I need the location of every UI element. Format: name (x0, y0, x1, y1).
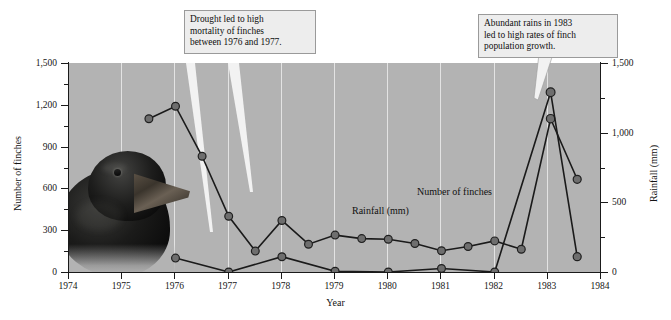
y-tick-left (61, 188, 69, 189)
annotation-line: between 1976 and 1977. (190, 37, 310, 49)
x-axis-tick-label: 1983 (537, 281, 556, 291)
data-point (411, 240, 419, 248)
x-axis-tick-label: 1984 (591, 281, 610, 291)
y-tick-left-minor (64, 209, 69, 210)
data-point (172, 254, 180, 262)
pointer-drought-2 (228, 63, 253, 192)
y-axis-right-tick-label: 500 (612, 197, 626, 207)
y-tick-left (61, 230, 69, 231)
data-point (358, 235, 366, 243)
data-point (491, 237, 499, 245)
data-point (278, 253, 286, 261)
data-point (145, 115, 153, 123)
x-tick (494, 272, 495, 279)
y-axis-right-tick-label: 0 (612, 267, 617, 277)
y-axis-left-title: Number of finches (12, 109, 23, 239)
x-axis-tick-label: 1980 (378, 281, 397, 291)
x-axis-tick-label: 1976 (165, 281, 184, 291)
x-tick (174, 272, 175, 279)
y-tick-left (61, 105, 69, 106)
y-tick-right (600, 133, 608, 134)
series-line-finches (149, 106, 577, 251)
x-tick (387, 272, 388, 279)
y-axis-right-title: Rainfall (mm) (648, 109, 659, 239)
data-point (278, 217, 286, 225)
annotation-line: population growth. (484, 41, 612, 53)
series-line-rainfall (176, 92, 578, 272)
data-point (546, 88, 555, 97)
x-axis-tick-label: 1974 (59, 281, 78, 291)
y-tick-right-minor (600, 168, 605, 169)
x-axis-tick-label: 1977 (218, 281, 237, 291)
x-tick (68, 272, 69, 279)
data-point (546, 115, 554, 123)
y-tick-left-minor (64, 168, 69, 169)
y-axis-right-tick-label: 1,500 (612, 58, 633, 68)
data-point (198, 152, 206, 160)
annotation-line: led to high rates of finch (484, 30, 612, 42)
x-tick (228, 272, 229, 279)
y-tick-left (61, 63, 69, 64)
x-axis-tick-label: 1978 (271, 281, 290, 291)
data-point (573, 175, 581, 183)
annotation-drought: Drought led to high mortality of finches… (184, 10, 316, 54)
data-point (172, 102, 180, 110)
annotation-line: Drought led to high (190, 14, 310, 26)
data-point (331, 231, 339, 239)
y-tick-left-minor (64, 84, 69, 85)
data-point (464, 243, 472, 251)
y-axis-right-tick-label: 1,000 (612, 128, 633, 138)
y-axis-left-tick-label: 300 (43, 225, 57, 235)
x-axis-tick-label: 1982 (484, 281, 503, 291)
callout-pointers (186, 63, 253, 232)
data-point (251, 247, 259, 255)
pointer-drought-1 (186, 63, 213, 232)
y-tick-right (600, 63, 608, 64)
y-tick-right (600, 202, 608, 203)
data-point (517, 245, 525, 253)
annotation-line: Abundant rains in 1983 (484, 18, 612, 30)
data-point (225, 212, 233, 220)
x-tick (440, 272, 441, 279)
data-point (305, 240, 313, 248)
y-tick-right-minor (600, 237, 605, 238)
y-axis-left-tick-label: 1,500 (36, 58, 57, 68)
y-axis-left-tick-label: 600 (43, 183, 57, 193)
y-axis-left-tick-label: 0 (52, 267, 57, 277)
y-tick-left-minor (64, 126, 69, 127)
data-point (438, 247, 446, 255)
data-point (573, 253, 581, 261)
x-tick (334, 272, 335, 279)
annotation-rains: Abundant rains in 1983 led to high rates… (478, 14, 618, 58)
x-tick (600, 272, 601, 279)
y-tick-left (61, 147, 69, 148)
annotation-line: mortality of finches (190, 26, 310, 38)
x-tick (547, 272, 548, 279)
y-axis-left-tick-label: 900 (43, 142, 57, 152)
y-tick-right (600, 272, 608, 273)
figure-root: Rainfall (mm) Number of finches (0, 0, 671, 320)
series-markers-finches (145, 102, 581, 255)
series-number-of-finches (145, 102, 581, 255)
data-point (384, 235, 392, 243)
x-tick (121, 272, 122, 279)
x-axis-title: Year (0, 297, 671, 308)
y-tick-left-minor (64, 251, 69, 252)
y-tick-right-minor (600, 98, 605, 99)
x-axis-tick-label: 1975 (112, 281, 131, 291)
x-tick (281, 272, 282, 279)
x-axis-tick-label: 1979 (325, 281, 344, 291)
x-axis-tick-label: 1981 (431, 281, 450, 291)
y-axis-left-tick-label: 1,200 (36, 100, 57, 110)
